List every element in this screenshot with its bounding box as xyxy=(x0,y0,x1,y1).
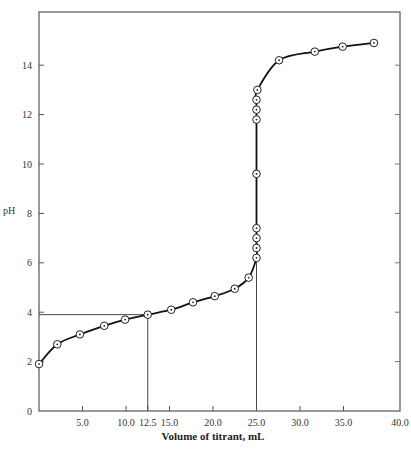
data-point-center xyxy=(278,59,280,61)
data-point xyxy=(254,86,262,94)
data-point-center xyxy=(256,247,258,249)
data-point-center xyxy=(214,295,216,297)
data-point-center xyxy=(170,309,172,311)
data-point xyxy=(253,224,261,232)
plot-frame xyxy=(39,12,400,411)
data-point xyxy=(167,306,175,314)
y-tick-label: 0 xyxy=(27,406,32,417)
data-point-center xyxy=(147,314,149,316)
data-point xyxy=(370,39,378,47)
data-point xyxy=(76,331,84,339)
data-point-center xyxy=(256,227,258,229)
data-point-center xyxy=(373,42,375,44)
x-tick-label: 15.0 xyxy=(161,417,179,428)
data-point xyxy=(339,43,347,51)
data-point-center xyxy=(124,319,126,321)
y-tick-label: 2 xyxy=(27,356,32,367)
data-point xyxy=(253,96,261,104)
x-tick-label: 5.0 xyxy=(76,417,89,428)
y-tick-label: 8 xyxy=(27,208,32,219)
data-point xyxy=(253,234,261,242)
data-point-center xyxy=(234,288,236,290)
data-point xyxy=(100,322,108,330)
x-tick-label: 12.5 xyxy=(139,417,157,428)
data-point xyxy=(253,106,261,114)
data-point-center xyxy=(342,46,344,48)
data-point-center xyxy=(256,119,258,121)
x-tick-label: 20.0 xyxy=(204,417,222,428)
data-point-center xyxy=(103,325,105,327)
titration-chart: 024681012145.010.012.515.020.025.030.035… xyxy=(0,0,411,449)
data-point xyxy=(144,311,152,319)
data-point-center xyxy=(248,277,250,279)
data-point-center xyxy=(256,89,258,91)
data-point xyxy=(189,299,197,307)
data-point xyxy=(245,274,253,282)
data-point-center xyxy=(56,343,58,345)
data-point xyxy=(35,360,43,368)
titration-curve-line xyxy=(39,43,374,364)
data-point xyxy=(253,170,261,178)
data-point xyxy=(211,292,219,300)
y-tick-label: 6 xyxy=(27,257,32,268)
y-tick-label: 4 xyxy=(27,307,32,318)
x-axis-title: Volume of titrant, mL xyxy=(162,430,265,442)
data-point-center xyxy=(38,363,40,365)
data-point-center xyxy=(256,237,258,239)
y-axis-title: pH xyxy=(3,205,15,216)
data-point xyxy=(253,244,261,252)
data-point-center xyxy=(256,99,258,101)
data-point xyxy=(53,341,61,349)
x-tick-label: 10.0 xyxy=(117,417,135,428)
data-point xyxy=(275,56,283,64)
y-tick-label: 10 xyxy=(22,159,32,170)
data-point-center xyxy=(192,301,194,303)
y-tick-label: 14 xyxy=(22,60,32,71)
data-point-center xyxy=(256,257,258,259)
data-point-center xyxy=(256,173,258,175)
data-point xyxy=(121,316,129,324)
data-point xyxy=(253,254,261,262)
data-point-center xyxy=(79,334,81,336)
data-point-center xyxy=(256,109,258,111)
x-tick-label: 25.0 xyxy=(248,417,266,428)
x-tick-label: 30.0 xyxy=(291,417,309,428)
y-tick-label: 12 xyxy=(22,109,32,120)
data-point xyxy=(253,116,261,124)
data-point-center xyxy=(314,51,316,53)
x-tick-label: 35.0 xyxy=(335,417,353,428)
data-point xyxy=(311,48,319,56)
data-point xyxy=(231,285,239,293)
x-tick-label: 40.0 xyxy=(391,417,409,428)
